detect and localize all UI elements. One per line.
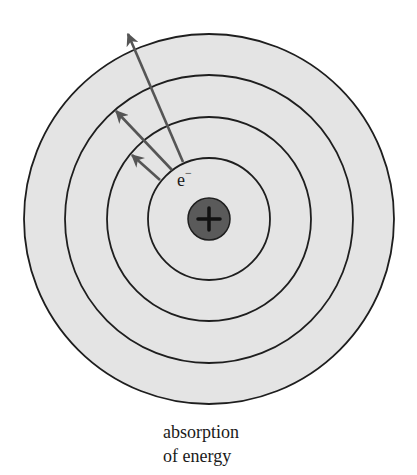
- electron-symbol: e: [177, 170, 185, 190]
- caption-line-1: absorption: [163, 420, 239, 444]
- caption: absorption of energy: [163, 420, 239, 468]
- electron-label: e−: [177, 168, 192, 191]
- nucleus: [188, 198, 230, 240]
- caption-line-2: of energy: [163, 444, 239, 468]
- electron-charge: −: [185, 166, 192, 180]
- bohr-atom-diagram: [0, 0, 417, 475]
